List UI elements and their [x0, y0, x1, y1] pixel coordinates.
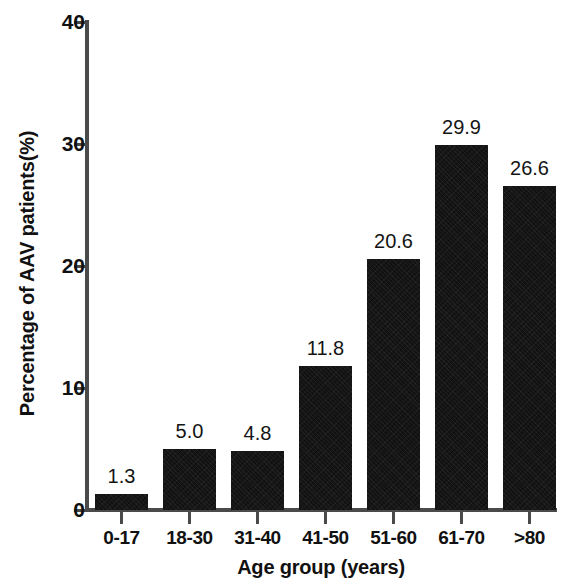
- x-category-label-5: 61-70: [426, 527, 497, 549]
- bar-6: [503, 186, 556, 511]
- x-axis-title: Age group (years): [85, 556, 557, 579]
- bar-2: [231, 451, 284, 510]
- bar-4: [367, 259, 420, 510]
- x-category-label-2: 31-40: [222, 527, 293, 549]
- x-tick-mark-3: [324, 512, 327, 524]
- x-category-label-1: 18-30: [154, 527, 225, 549]
- bar-5: [435, 145, 488, 510]
- x-tick-mark-0: [120, 512, 123, 524]
- x-tick-mark-1: [188, 512, 191, 524]
- y-tick-label: 40: [25, 11, 85, 32]
- y-tick-label: 30: [25, 133, 85, 154]
- bar-value-0: 1.3: [86, 466, 157, 486]
- x-tick-mark-2: [256, 512, 259, 524]
- bar-value-1: 5.0: [154, 421, 225, 441]
- y-axis-line: [85, 20, 89, 512]
- x-category-label-6: >80: [494, 527, 561, 549]
- bar-0: [95, 494, 148, 510]
- x-tick-mark-6: [528, 512, 531, 524]
- x-tick-mark-4: [392, 512, 395, 524]
- bar-value-6: 26.6: [494, 158, 561, 178]
- bar-value-3: 11.8: [290, 338, 361, 358]
- bar-value-2: 4.8: [222, 423, 293, 443]
- x-category-label-4: 51-60: [358, 527, 429, 549]
- y-tick-label: 20: [25, 255, 85, 276]
- bar-value-5: 29.9: [426, 117, 497, 137]
- x-category-label-3: 41-50: [290, 527, 361, 549]
- x-category-label-0: 0-17: [86, 527, 157, 549]
- y-tick-label: 10: [25, 377, 85, 398]
- bar-3: [299, 366, 352, 510]
- y-tick-label: 0: [25, 499, 85, 520]
- bar-value-4: 20.6: [358, 231, 429, 251]
- bar-1: [163, 449, 216, 510]
- bar-chart-figure: Percentage of AAV patients(%) 0 10 20 30…: [0, 0, 561, 583]
- x-tick-mark-5: [460, 512, 463, 524]
